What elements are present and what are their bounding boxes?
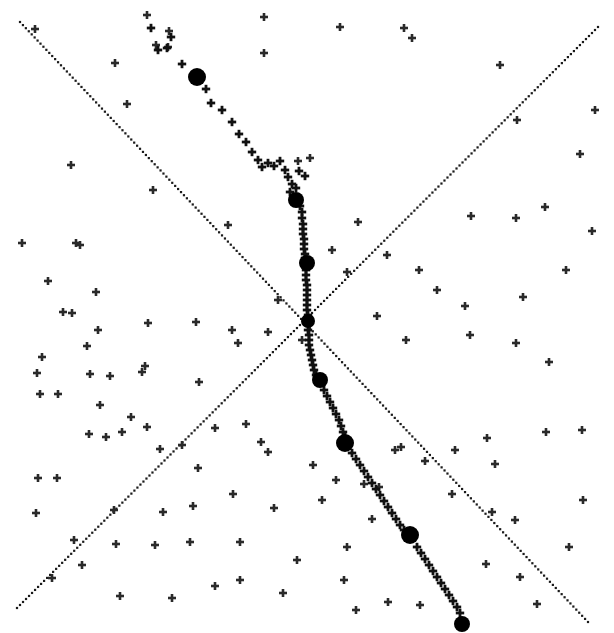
- track-bright-node: [299, 255, 315, 271]
- track-bright-node: [288, 192, 304, 208]
- track-bright-node: [312, 372, 328, 388]
- track-bright-node: [454, 616, 470, 632]
- track-bright-node: [301, 314, 315, 328]
- track-bright-node: [188, 68, 206, 86]
- track-bright-node: [401, 526, 419, 544]
- track-bright-node: [336, 434, 354, 452]
- figure-canvas: [0, 0, 614, 633]
- scatter-plot-svg: [0, 0, 614, 633]
